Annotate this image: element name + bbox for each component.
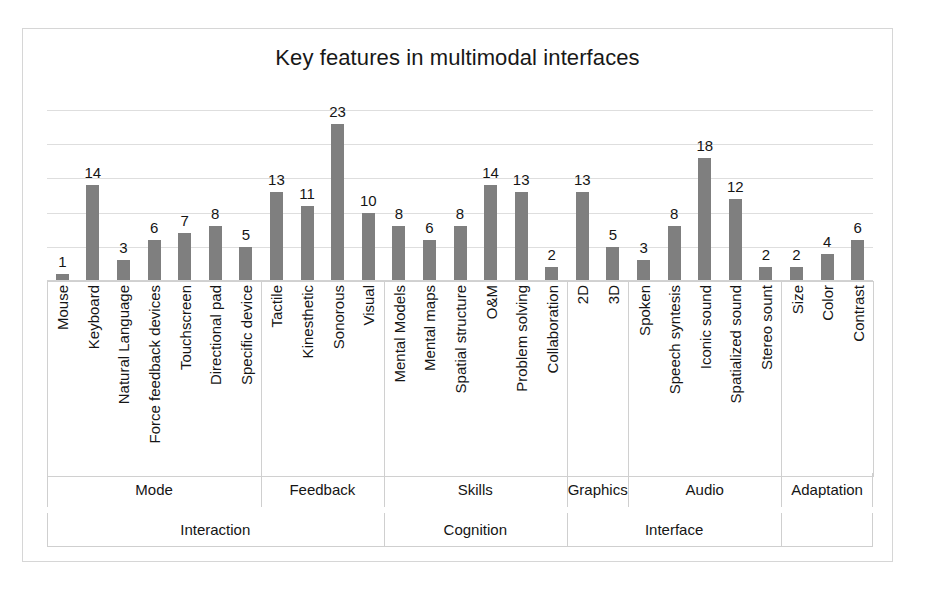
bar-value-label: 8 (656, 206, 692, 221)
group-label-level-1: Graphics (567, 473, 628, 507)
group-label-level-1: Skills (384, 473, 568, 507)
category-label: Kinesthetic (300, 285, 315, 358)
bar-value-label: 4 (809, 234, 845, 249)
bar (790, 267, 803, 281)
category-label-cell: O&M (475, 281, 506, 477)
category-label: Keyboard (85, 285, 100, 349)
group-label-level-2 (781, 513, 873, 547)
bar (331, 124, 344, 281)
bar (668, 226, 681, 281)
bar (821, 254, 834, 281)
group-separator (872, 473, 873, 507)
category-label-cell: Tactile (261, 281, 292, 477)
bar-value-label: 1 (44, 254, 80, 269)
band-rule (47, 281, 873, 282)
category-label-cell: Size (781, 281, 812, 477)
bar (301, 206, 314, 281)
group-separator (567, 513, 568, 547)
category-label: Mouse (55, 285, 70, 330)
category-label-cell: Stereo sount (751, 281, 782, 477)
category-label: 2D (575, 285, 590, 304)
gridline (47, 110, 873, 111)
group-label-level-1: Feedback (261, 473, 383, 507)
bar (515, 192, 528, 281)
group-label-level-2: Interaction (47, 513, 384, 547)
bar-value-label: 23 (320, 104, 356, 119)
bar (851, 240, 864, 281)
category-label-cell: Mental maps (414, 281, 445, 477)
category-label-cell: Contrast (842, 281, 873, 477)
group-separator (384, 473, 385, 507)
bar-value-label: 2 (779, 247, 815, 262)
group-separator (47, 473, 48, 507)
category-label: Speech syntesis (667, 285, 682, 394)
group-separator (872, 513, 873, 547)
bar-value-label: 2 (534, 247, 570, 262)
category-label: Specific device (238, 285, 253, 385)
bar (209, 226, 222, 281)
category-label-cell: Kinesthetic (292, 281, 323, 477)
category-label-cell: Color (812, 281, 843, 477)
category-label-cell: Keyboard (78, 281, 109, 477)
category-label: Tactile (269, 285, 284, 328)
group-label-level-1: Mode (47, 473, 261, 507)
bar-value-label: 8 (197, 206, 233, 221)
category-label: O&M (483, 285, 498, 319)
bar (239, 247, 252, 281)
plot-area: 1143678513112310868141321353818122246 (47, 110, 873, 281)
category-label: Touchscreen (177, 285, 192, 370)
bar (576, 192, 589, 281)
bar-value-label: 5 (228, 227, 264, 242)
category-label-cell: Problem solving (506, 281, 537, 477)
group-label-level-1: Audio (628, 473, 781, 507)
group-row-level-2: InteractionCognitionInterface (47, 513, 873, 547)
category-label: Spoken (636, 285, 651, 336)
group-row-level-1: ModeFeedbackSkillsGraphicsAudioAdaptatio… (47, 473, 873, 507)
category-label: Problem solving (514, 285, 529, 392)
bar (86, 185, 99, 281)
group-separator (781, 473, 782, 507)
bar (454, 226, 467, 281)
category-label-cell: Specific device (231, 281, 262, 477)
category-label-cell: Mouse (47, 281, 78, 477)
category-label-cell: Visual (353, 281, 384, 477)
bar-value-label: 6 (840, 220, 876, 235)
category-label-cell: Iconic sound (689, 281, 720, 477)
bar-value-label: 3 (105, 240, 141, 255)
group-separator (567, 281, 568, 477)
bar (729, 199, 742, 281)
category-label-cell: Spatialized sound (720, 281, 751, 477)
bar (178, 233, 191, 281)
bar (606, 247, 619, 281)
category-label: Spatialized sound (728, 285, 743, 403)
bar-value-label: 18 (687, 138, 723, 153)
group-separator (873, 281, 874, 477)
bar-value-label: 6 (411, 220, 447, 235)
category-label-cell: 3D (598, 281, 629, 477)
group-separator (567, 473, 568, 507)
bar-value-label: 14 (75, 165, 111, 180)
category-label: Collaboration (544, 285, 559, 373)
category-label: Size (789, 285, 804, 314)
category-label-cell: Touchscreen (169, 281, 200, 477)
group-separator (628, 473, 629, 507)
bar-value-label: 13 (503, 172, 539, 187)
category-label: Mental maps (422, 285, 437, 371)
group-separator (781, 281, 782, 477)
bar (392, 226, 405, 281)
category-label: Force feedback devices (147, 285, 162, 443)
bar (545, 267, 558, 281)
group-label-level-2: Interface (567, 513, 781, 547)
group-label-level-2: Cognition (384, 513, 568, 547)
bar-value-label: 13 (564, 172, 600, 187)
bar (698, 158, 711, 281)
group-separator (628, 281, 629, 477)
category-label: Sonorous (330, 285, 345, 349)
category-label: Mental Models (391, 285, 406, 383)
bar (270, 192, 283, 281)
band-rule (47, 546, 873, 547)
bar (362, 213, 375, 281)
category-label-cell: Spoken (628, 281, 659, 477)
category-label-cell: Natural Language (108, 281, 139, 477)
category-label: Natural Language (116, 285, 131, 404)
